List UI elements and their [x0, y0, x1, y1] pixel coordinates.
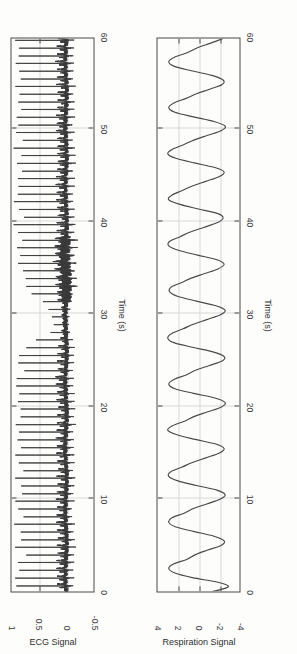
ecg-xtick — [88, 128, 93, 129]
resp-ytick — [220, 38, 221, 43]
resp-ytick-label: 4 — [153, 596, 162, 630]
resp-xtick — [157, 313, 162, 314]
resp-xtick-label: 60 — [245, 32, 254, 41]
ecg-ytick — [67, 586, 68, 591]
ecg-xtick — [11, 498, 16, 499]
ecg-ytick — [39, 586, 40, 591]
resp-ytick-label: -4 — [236, 596, 245, 630]
ecg-trace — [11, 38, 93, 591]
resp-xtick-label: 10 — [245, 495, 254, 504]
resp-xtick-label: 20 — [245, 402, 254, 411]
resp-xtick — [157, 220, 162, 221]
ecg-xtick — [11, 405, 16, 406]
resp-xtick — [234, 128, 239, 129]
resp-ytick — [178, 38, 179, 43]
resp-yaxis-title: Respiration Signal — [158, 638, 240, 647]
ecg-xtick — [11, 313, 16, 314]
ecg-ytick-label: 1 — [7, 596, 16, 630]
figure: 0 10 20 30 40 50 60 -0.5 0 0.5 1 Time (s… — [0, 0, 297, 654]
resp-xtick-label: 50 — [245, 125, 254, 134]
resp-xtick — [234, 498, 239, 499]
resp-ytick — [199, 38, 200, 43]
ecg-xtick-label: 30 — [99, 310, 108, 319]
respiration-plot-area — [156, 37, 240, 592]
ecg-xaxis-title: Time (s) — [116, 299, 125, 332]
ecg-xtick — [88, 220, 93, 221]
panel-ecg-signal: 0 10 20 30 40 50 60 -0.5 0 0.5 1 Time (s… — [6, 0, 146, 654]
resp-xtick — [234, 405, 239, 406]
rotated-figure-wrapper: 0 10 20 30 40 50 60 -0.5 0 0.5 1 Time (s… — [0, 0, 297, 654]
ecg-xtick-label: 0 — [99, 590, 108, 595]
resp-ytick-label: 0 — [194, 596, 203, 630]
ecg-xtick-label: 60 — [99, 32, 108, 41]
panel-respiration-signal: 0 10 20 30 40 50 60 -4 -2 0 2 4 Time (s)… — [152, 0, 292, 654]
ecg-ytick-label: -0.5 — [90, 596, 99, 630]
resp-xtick-label: 30 — [245, 310, 254, 319]
ecg-xtick — [11, 128, 16, 129]
resp-xtick-label: 40 — [245, 217, 254, 226]
ecg-xtick — [88, 313, 93, 314]
ecg-xtick-label: 10 — [99, 495, 108, 504]
ecg-ytick — [39, 38, 40, 43]
resp-xtick — [157, 498, 162, 499]
ecg-xtick-label: 20 — [99, 402, 108, 411]
resp-xtick-label: 0 — [245, 590, 254, 595]
respiration-trace — [157, 38, 239, 591]
resp-xtick — [234, 313, 239, 314]
resp-ytick — [199, 586, 200, 591]
ecg-ytick — [67, 38, 68, 43]
ecg-ytick-label: 0 — [62, 596, 71, 630]
resp-ytick — [178, 586, 179, 591]
resp-xtick — [157, 405, 162, 406]
ecg-xtick — [11, 220, 16, 221]
ecg-ytick-label: 0.5 — [34, 596, 43, 630]
ecg-xtick-label: 40 — [99, 217, 108, 226]
resp-ytick-label: -2 — [215, 596, 224, 630]
resp-xtick — [234, 220, 239, 221]
ecg-xtick — [88, 498, 93, 499]
resp-xaxis-title: Time (s) — [262, 299, 271, 332]
resp-ytick-label: 2 — [173, 596, 182, 630]
ecg-yaxis-title: ECG Signal — [23, 638, 83, 647]
ecg-xtick — [88, 405, 93, 406]
resp-xtick — [157, 128, 162, 129]
ecg-xtick-label: 50 — [99, 125, 108, 134]
ecg-plot-area — [10, 37, 94, 592]
resp-ytick — [220, 586, 221, 591]
